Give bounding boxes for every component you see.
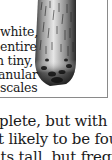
body-text-line: its tall, but frequently the bbox=[0, 149, 112, 160]
body-text-line: plete, but with an orange bbox=[0, 113, 112, 130]
caption-line: h tiny, bbox=[0, 54, 33, 68]
caption-line: white, bbox=[0, 25, 38, 39]
mushroom-illustration bbox=[32, 0, 80, 88]
body-text-line: t likely to be found grow- bbox=[0, 131, 112, 148]
caption-line: scales bbox=[0, 81, 37, 95]
caption-line: entire bbox=[0, 40, 37, 54]
